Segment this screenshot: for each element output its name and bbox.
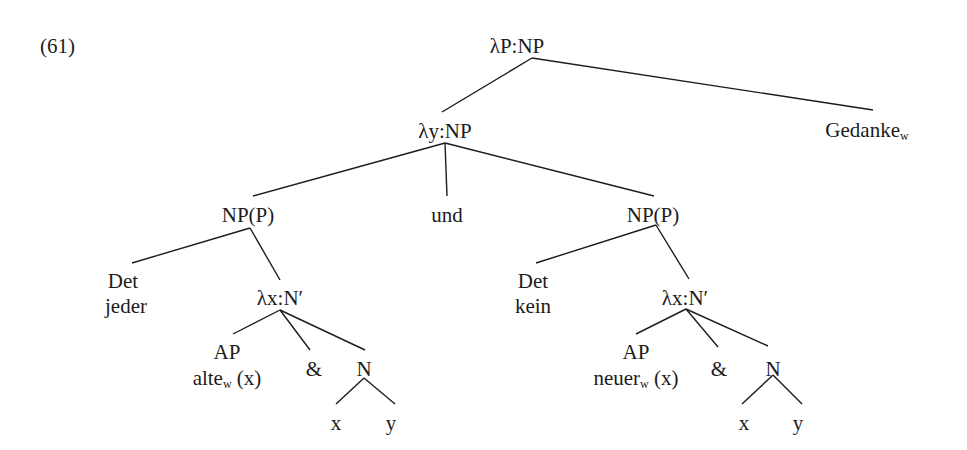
tree-node-x2: x (739, 411, 750, 435)
tree-edge (280, 310, 310, 350)
tree-edge (253, 143, 445, 196)
tree-node-y2: y (793, 411, 804, 435)
tree-node-n1: N (356, 357, 371, 381)
node-label: Gedanke (825, 118, 900, 142)
tree-node-np1: NP(P) (222, 203, 275, 227)
tree-edge (656, 225, 689, 279)
tree-node-neuer: neuerw (x) (593, 366, 678, 390)
node-label: alte (193, 366, 223, 390)
node-label: AP (214, 340, 241, 364)
node-label: N (765, 357, 780, 381)
node-subscript: w (900, 129, 909, 143)
tree-edge (636, 309, 686, 334)
node-subscript: w (640, 377, 649, 391)
tree-node-amp1: & (306, 357, 322, 381)
tree-node-ap1: AP (214, 340, 241, 364)
node-suffix: (x) (649, 366, 679, 390)
tree-node-ap2: AP (623, 340, 650, 364)
tree-edge (445, 143, 654, 196)
tree-edge (280, 310, 365, 350)
tree-edge (686, 309, 718, 347)
tree-node-x1: x (331, 411, 342, 435)
tree-node-ynp: λy:NP (418, 119, 471, 143)
tree-edge (250, 228, 280, 280)
node-label: x (331, 411, 342, 435)
tree-node-amp2: & (711, 357, 727, 381)
node-label: und (431, 203, 463, 227)
node-label: λy:NP (418, 119, 471, 143)
tree-edge (233, 310, 280, 334)
tree-node-n2: N (765, 357, 780, 381)
tree-node-np2: NP(P) (627, 203, 680, 227)
tree-edge (442, 58, 532, 112)
node-label: & (306, 357, 322, 381)
node-subscript: w (223, 377, 232, 391)
node-label: NP(P) (627, 203, 680, 227)
node-label: N (356, 357, 371, 381)
node-label: & (711, 357, 727, 381)
node-label: kein (515, 294, 551, 318)
tree-node-jeder: jeder (105, 294, 147, 318)
tree-edge (336, 378, 364, 404)
example-number: (61) (40, 34, 75, 58)
tree-node-und: und (431, 203, 463, 227)
node-label: Det (518, 269, 548, 293)
node-label: jeder (105, 294, 147, 318)
tree-edges (0, 0, 967, 450)
node-label: AP (623, 340, 650, 364)
tree-edge (536, 225, 656, 263)
node-label: y (793, 411, 804, 435)
node-label: y (386, 411, 397, 435)
tree-node-alte: altew (x) (193, 366, 262, 390)
tree-node-det1: Det (108, 269, 138, 293)
node-label: neuer (593, 366, 640, 390)
node-label: x (739, 411, 750, 435)
node-suffix: (x) (232, 366, 262, 390)
tree-node-lx1: λx:N′ (257, 286, 303, 310)
node-label: Det (108, 269, 138, 293)
tree-edge (532, 58, 873, 110)
node-label: NP(P) (222, 203, 275, 227)
tree-edge (686, 309, 768, 346)
tree-node-y1: y (386, 411, 397, 435)
tree-node-lx2: λx:N′ (662, 286, 708, 310)
tree-edge (445, 143, 447, 196)
node-label: λx:N′ (257, 286, 303, 310)
tree-edge (364, 378, 395, 404)
tree-node-root: λP:NP (490, 34, 545, 58)
tree-edge (132, 228, 250, 263)
tree-node-gedanke: Gedankew (825, 118, 908, 142)
node-label: λx:N′ (662, 286, 708, 310)
tree-node-det2: Det (518, 269, 548, 293)
tree-node-kein: kein (515, 294, 551, 318)
node-label: λP:NP (490, 34, 545, 58)
